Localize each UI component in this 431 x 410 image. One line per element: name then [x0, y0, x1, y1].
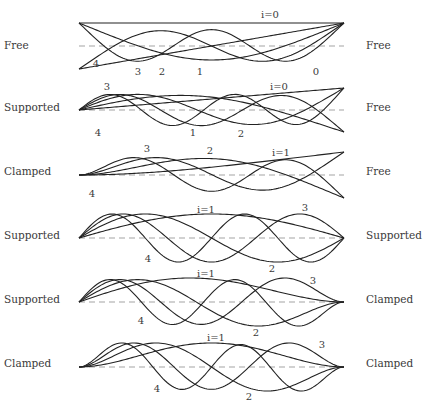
right-boundary-label: Free: [366, 39, 391, 51]
mode-curve-3: [79, 278, 344, 324]
mode-number-label: 2: [159, 66, 165, 77]
mode-number-label: 2: [238, 128, 244, 139]
mode-number-label: i=1: [272, 147, 290, 158]
mode-number-label: 1: [190, 127, 196, 138]
mode-number-label: 4: [154, 383, 160, 394]
mode-number-label: i=0: [261, 9, 279, 20]
mode-curve-2: [79, 23, 344, 60]
mode-number-label: 4: [138, 315, 144, 326]
mode-curve-3: [79, 94, 344, 132]
mode-number-label: i=1: [207, 332, 225, 343]
mode-number-label: 2: [253, 327, 259, 338]
mode-number-label: i=0: [270, 81, 288, 92]
mode-curve-1: [79, 214, 344, 238]
left-boundary-label: Supported: [4, 101, 60, 113]
mode-curve-4: [79, 23, 344, 61]
mode-number-label: 3: [310, 275, 316, 286]
mode-number-label: 2: [207, 145, 213, 156]
mode-number-label: i=1: [197, 204, 215, 215]
mode-number-label: 2: [269, 263, 275, 274]
panel-supported-free: [79, 88, 344, 132]
panel-clamped-free: [79, 152, 344, 198]
panel-free-free: [79, 23, 344, 69]
right-boundary-label: Free: [366, 101, 391, 113]
mode-curve-4: [79, 280, 344, 326]
mode-number-label: 0: [313, 66, 319, 77]
left-boundary-label: Supported: [4, 293, 60, 305]
mode-curve-0: [79, 88, 344, 110]
right-boundary-label: Clamped: [366, 357, 413, 369]
left-boundary-label: Clamped: [4, 357, 51, 369]
mode-number-label: 4: [145, 253, 151, 264]
left-boundary-label: Supported: [4, 229, 60, 241]
left-boundary-label: Clamped: [4, 165, 51, 177]
mode-number-label: 3: [135, 66, 141, 77]
panel-supported-supported: [79, 214, 344, 262]
mode-number-label: 2: [246, 391, 252, 402]
left-boundary-label: Free: [4, 39, 29, 51]
mode-number-label: 4: [93, 58, 99, 69]
mode-number-label: 4: [95, 127, 101, 138]
mode-curve-2: [79, 280, 344, 326]
mode-number-label: 3: [302, 202, 308, 213]
mode-number-label: 1: [197, 66, 203, 77]
panel-clamped-clamped: [79, 343, 344, 391]
right-boundary-label: Supported: [366, 229, 422, 241]
right-boundary-label: Free: [366, 165, 391, 177]
mode-curve-1: [79, 95, 344, 132]
mode-number-label: 3: [104, 81, 110, 92]
right-boundary-label: Clamped: [366, 293, 413, 305]
mode-number-label: 4: [89, 188, 95, 199]
mode-shape-diagram: [0, 0, 431, 410]
mode-number-label: 3: [319, 339, 325, 350]
mode-number-label: 3: [144, 143, 150, 154]
panel-supported-clamped: [79, 278, 344, 326]
mode-number-label: i=1: [197, 268, 215, 279]
